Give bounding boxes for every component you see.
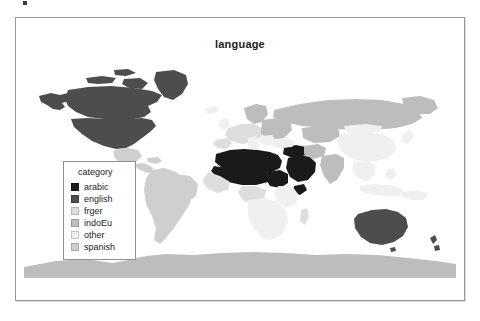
legend-swatch-arabic: [71, 183, 79, 191]
region-iceland: [205, 106, 219, 114]
region-russia: [273, 99, 422, 130]
region-japan: [402, 130, 414, 144]
legend-label-other: other: [84, 230, 105, 240]
legend-swatch-indoeu: [71, 219, 79, 227]
region-philippines: [385, 168, 396, 180]
legend-label-frger: frger: [84, 206, 103, 216]
region-sudan: [266, 170, 288, 188]
region-china: [337, 132, 396, 162]
legend-swatch-spanish: [71, 243, 79, 251]
region-ellesmere: [114, 69, 136, 76]
legend: category arabic english frger indoEu oth…: [63, 161, 136, 260]
region-caribbean: [147, 157, 162, 164]
legend-item-arabic[interactable]: arabic: [71, 181, 129, 192]
region-mongolia: [344, 124, 382, 134]
legend-label-arabic: arabic: [84, 182, 109, 192]
region-united-states: [71, 118, 156, 149]
region-indonesia: [360, 184, 404, 196]
region-central-asia: [302, 126, 340, 143]
region-new-guinea: [402, 190, 428, 200]
region-new-zealand: [430, 235, 440, 251]
region-arabian-peninsula: [286, 155, 316, 182]
legend-item-frger[interactable]: frger: [71, 205, 129, 216]
region-canadian-arctic: [86, 76, 116, 84]
plot-frame: language: [15, 17, 465, 301]
region-madagascar: [300, 208, 309, 225]
region-tasmania: [390, 247, 396, 252]
legend-item-spanish[interactable]: spanish: [71, 241, 129, 252]
region-canada: [65, 86, 162, 120]
page-title: language: [16, 38, 464, 50]
legend-swatch-frger: [71, 207, 79, 215]
legend-label-spanish: spanish: [84, 242, 115, 252]
region-iberia: [213, 138, 232, 149]
legend-swatch-other: [71, 231, 79, 239]
legend-swatch-english: [71, 195, 79, 203]
legend-item-indoeu[interactable]: indoEu: [71, 217, 129, 228]
legend-item-other[interactable]: other: [71, 229, 129, 240]
legend-label-indoeu: indoEu: [84, 218, 112, 228]
screenshot-root: language: [0, 0, 480, 321]
legend-item-english[interactable]: english: [71, 193, 129, 204]
capture-artifact: [23, 1, 27, 5]
region-india: [320, 154, 344, 184]
legend-label-english: english: [84, 194, 113, 204]
legend-title: category: [78, 167, 129, 177]
region-southeast-asia: [352, 161, 376, 182]
region-australia: [354, 209, 408, 245]
region-brazil: [172, 174, 198, 204]
